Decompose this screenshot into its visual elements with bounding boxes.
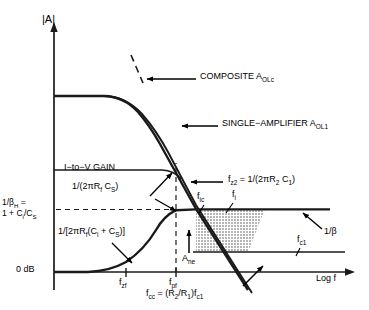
marker-fzf: fzf [119,278,127,290]
x-axis-arrow [345,268,355,275]
i-to-v-gain-label: I−to−V GAIN [64,163,115,172]
zero-db-label: 0 dB [16,265,35,274]
fcc-label: fcc = (R2/R1)fc1 [146,289,203,301]
one-over-beta-leader-arrow [303,213,322,229]
one-over-beta-label: 1/β [324,227,337,236]
fz2-label: fz2 = 1/(2πR2 C1) [228,175,295,187]
beta-h-label: 1/βH = 1 + Ci/CS [2,198,37,220]
marker-fic: fic [197,192,204,204]
ane-label: Ane [182,254,195,266]
pole-rfcics-leader-arrow [112,243,132,263]
y-axis-label: |A| [42,14,55,26]
marker-fi: fi [232,190,236,202]
bode-plot-figure: |A| Log f 0 dB COMPOSITE AOLc SINGLE−AMP… [0,0,369,310]
pole-rf-ci-cs-label: 1/[2πRf(Ci + CS)] [58,227,125,239]
pole-rf-cs-label: 1/(2πRf CS) [72,182,118,194]
single-amplifier-label: SINGLE−AMPLIFIER AOL1 [222,119,328,131]
composite-asymptote-dashed [131,55,143,83]
composite-label: COMPOSITE AOLc [200,72,274,84]
stability-margin-region [196,209,265,252]
pole-rfcs-leader-arrow-up [150,173,172,196]
fcc-leader-arrow [243,266,263,286]
marker-fc1: fc1 [297,235,306,247]
x-axis-label: Log f [316,274,336,283]
marker-fpf: fpf [169,278,177,290]
